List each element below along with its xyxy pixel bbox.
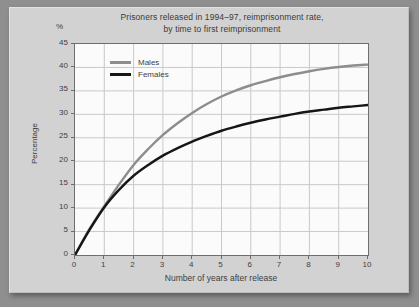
x-tick-label: 4: [181, 260, 201, 269]
x-tick-mark: [250, 256, 251, 259]
x-tick-mark: [308, 256, 309, 259]
y-axis-title: Percentage: [30, 99, 39, 189]
x-tick-label: 6: [240, 260, 260, 269]
y-tick-label: 0: [44, 249, 68, 258]
chart-legend: Males Females: [110, 56, 169, 80]
y-tick-label: 10: [44, 202, 68, 211]
legend-swatch-males: [110, 61, 131, 64]
x-tick-mark: [338, 256, 339, 259]
y-tick-label: 25: [44, 131, 68, 140]
y-tick-label: 45: [44, 38, 68, 47]
y-axis-unit-label: %: [56, 22, 63, 31]
x-tick-mark: [279, 256, 280, 259]
x-tick-mark: [162, 256, 163, 259]
y-tick-label: 35: [44, 84, 68, 93]
chart-figure: Prisoners released in 1994–97, reimpriso…: [9, 7, 409, 293]
x-tick-mark: [133, 256, 134, 259]
chart-title-line-1: Prisoners released in 1994–97, reimpriso…: [72, 12, 372, 24]
x-tick-label: 0: [64, 260, 84, 269]
y-tick-label: 40: [44, 61, 68, 70]
y-tick-label: 20: [44, 155, 68, 164]
x-tick-label: 8: [298, 260, 318, 269]
y-tick-label: 5: [44, 225, 68, 234]
x-tick-mark: [103, 256, 104, 259]
x-tick-label: 2: [123, 260, 143, 269]
x-tick-mark: [191, 256, 192, 259]
x-tick-label: 9: [328, 260, 348, 269]
legend-item-males: Males: [110, 56, 169, 68]
y-tick-label: 30: [44, 108, 68, 117]
chart-title-line-2: by time to first reimprisonment: [72, 24, 372, 36]
legend-item-females: Females: [110, 68, 169, 80]
x-tick-label: 7: [269, 260, 289, 269]
x-tick-mark: [221, 256, 222, 259]
x-axis-title: Number of years after release: [74, 273, 368, 283]
chart-title: Prisoners released in 1994–97, reimpriso…: [72, 12, 372, 35]
legend-label-males: Males: [138, 58, 159, 67]
x-tick-label: 3: [152, 260, 172, 269]
x-tick-mark: [367, 256, 368, 259]
y-tick-label: 15: [44, 178, 68, 187]
x-tick-label: 5: [211, 260, 231, 269]
x-tick-label: 1: [93, 260, 113, 269]
x-tick-mark: [74, 256, 75, 259]
legend-swatch-females: [110, 73, 131, 76]
x-tick-label: 10: [357, 260, 377, 269]
legend-label-females: Females: [138, 70, 169, 79]
